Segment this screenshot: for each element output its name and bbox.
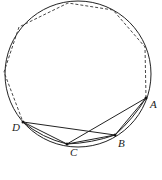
label-D: D [11, 121, 20, 133]
point-A [145, 97, 148, 100]
dashed-polygon [4, 3, 146, 122]
label-B: B [118, 137, 125, 149]
point-B [114, 134, 117, 137]
segment-BA [115, 98, 146, 135]
point-C [66, 143, 69, 146]
point-D [22, 121, 25, 124]
label-A: A [149, 98, 157, 110]
geometry-diagram: A B C D [0, 0, 162, 180]
label-C: C [70, 146, 78, 158]
